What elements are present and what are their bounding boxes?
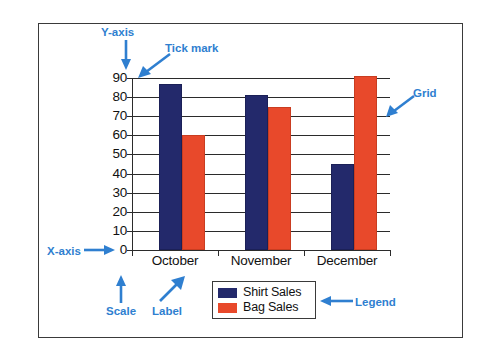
legend-swatch-shirt-sales: [218, 288, 237, 298]
y-axis-line: [132, 78, 133, 250]
annotation-tick-mark: Tick mark: [165, 42, 219, 54]
x-axis-group-tick: [132, 250, 133, 256]
y-axis-tick-label: 70: [101, 109, 127, 122]
legend: Shirt Sales Bag Sales: [212, 281, 316, 319]
x-axis-group-tick: [218, 250, 219, 256]
annotation-x-axis: X-axis: [47, 245, 81, 257]
y-axis-tick-label: 60: [101, 128, 127, 141]
annotation-legend: Legend: [355, 296, 396, 308]
legend-label-bag-sales: Bag Sales: [243, 301, 298, 314]
chart-page: 9080706050403020100 OctoberNovemberDecem…: [0, 0, 489, 356]
bar-shirt-sales-october: [159, 84, 182, 250]
y-axis-tick-label: 90: [101, 71, 127, 84]
y-axis-tick-label: 20: [101, 205, 127, 218]
bar-bag-sales-november: [268, 107, 291, 250]
bar-bag-sales-october: [182, 135, 205, 250]
x-axis-category-label: December: [304, 253, 390, 269]
x-axis-category-label: October: [132, 253, 218, 269]
plot-area: [132, 78, 390, 250]
y-axis-tick-label: 80: [101, 90, 127, 103]
annotation-grid: Grid: [413, 87, 437, 99]
bar-shirt-sales-november: [245, 95, 268, 250]
legend-item: Shirt Sales: [218, 285, 310, 300]
y-axis-tick-label: 40: [101, 167, 127, 180]
y-axis-tick-label: 0: [101, 243, 127, 256]
annotation-y-axis: Y-axis: [101, 26, 134, 38]
bar-bag-sales-december: [354, 76, 377, 250]
x-axis-group-tick: [390, 250, 391, 256]
legend-swatch-bag-sales: [218, 303, 237, 313]
x-axis-category-labels: OctoberNovemberDecember: [132, 253, 390, 273]
annotation-scale: Scale: [106, 305, 136, 317]
y-axis-tick-label: 30: [101, 186, 127, 199]
gridline: [132, 78, 390, 79]
x-axis-group-tick: [304, 250, 305, 256]
y-axis-tick-labels: 9080706050403020100: [101, 78, 127, 250]
bar-shirt-sales-december: [331, 164, 354, 250]
legend-label-shirt-sales: Shirt Sales: [243, 286, 301, 299]
annotation-label: Label: [152, 305, 182, 317]
x-axis-line: [132, 250, 390, 251]
y-axis-tick-label: 10: [101, 224, 127, 237]
y-axis-tick-label: 50: [101, 147, 127, 160]
legend-item: Bag Sales: [218, 300, 310, 315]
x-axis-category-label: November: [218, 253, 304, 269]
